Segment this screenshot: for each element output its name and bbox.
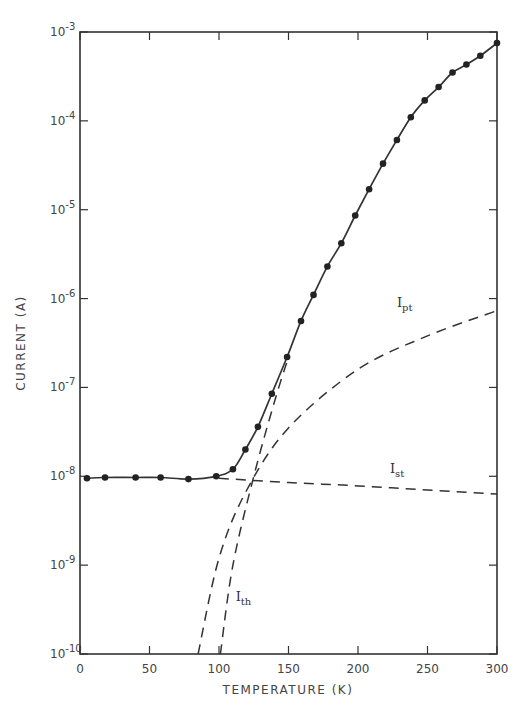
data-point	[338, 240, 345, 247]
data-point	[310, 292, 317, 299]
data-point	[435, 84, 442, 91]
y-tick-label: 10-3	[50, 21, 75, 39]
data-point	[157, 474, 164, 481]
data-point	[269, 390, 276, 397]
x-axis: 050100150200250300	[76, 32, 508, 676]
y-tick-label: 10-8	[50, 465, 75, 483]
x-tick-label: 300	[486, 662, 509, 676]
curve-label-th: Ith	[236, 589, 252, 607]
x-tick-label: 100	[208, 662, 231, 676]
curve-label-pt: Ipt	[397, 295, 413, 313]
x-tick-label: 200	[347, 662, 370, 676]
series-line-0	[87, 43, 497, 479]
y-axis: 10-310-410-510-610-710-810-910-10	[50, 21, 497, 661]
data-point	[324, 263, 331, 270]
x-axis-title: TEMPERATURE (K)	[222, 683, 354, 697]
data-point	[394, 137, 401, 144]
data-point	[255, 424, 262, 431]
series-line-1	[219, 478, 497, 494]
x-tick-label: 250	[416, 662, 439, 676]
data-point	[380, 160, 387, 167]
data-point	[213, 473, 220, 480]
plot-frame	[80, 32, 497, 654]
data-point	[298, 318, 305, 325]
data-point	[408, 114, 415, 121]
data-point	[463, 61, 470, 68]
data-point	[242, 446, 249, 453]
y-tick-label: 10-10	[50, 643, 82, 661]
data-point	[477, 52, 484, 59]
data-point	[102, 474, 109, 481]
data-point	[421, 97, 428, 104]
x-tick-label: 0	[76, 662, 84, 676]
series-group	[84, 40, 501, 654]
data-point	[230, 466, 237, 473]
data-point	[84, 475, 91, 482]
y-tick-label: 10-9	[50, 554, 75, 572]
data-point	[494, 40, 501, 47]
y-axis-title: CURRENT (A)	[14, 295, 28, 391]
data-point	[352, 212, 359, 219]
data-point	[366, 186, 373, 193]
chart-canvas: 10-310-410-510-610-710-810-910-10 050100…	[0, 0, 526, 712]
x-tick-label: 50	[142, 662, 157, 676]
plot-border	[80, 32, 497, 654]
y-tick-label: 10-7	[50, 376, 75, 394]
data-point	[449, 69, 456, 76]
data-point	[132, 474, 139, 481]
y-tick-label: 10-6	[50, 288, 75, 306]
curve-labels: IptIstIth	[236, 295, 413, 606]
y-tick-label: 10-5	[50, 199, 75, 217]
y-tick-label: 10-4	[50, 110, 75, 128]
data-point	[284, 354, 291, 361]
curve-label-st: Ist	[390, 461, 404, 479]
x-tick-label: 150	[277, 662, 300, 676]
data-point	[185, 476, 192, 483]
series-line-3	[220, 357, 288, 654]
